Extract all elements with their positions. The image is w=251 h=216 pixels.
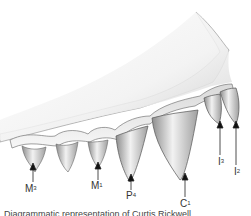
label-sup: 2 <box>237 168 240 174</box>
label-m3: M3 <box>25 184 37 194</box>
label-i3: I3 <box>218 157 224 167</box>
tooth-i2 <box>220 88 239 124</box>
label-p4: P4 <box>126 191 136 201</box>
tooth-i3 <box>204 94 221 124</box>
tooth-c1 <box>152 110 198 180</box>
figure-caption: Diagrammatic representation of Curtis Ri… <box>4 209 191 216</box>
label-base: P <box>126 190 133 201</box>
label-i2: I2 <box>234 167 240 177</box>
label-sup: 3 <box>221 158 224 164</box>
label-sup: 3 <box>33 185 36 191</box>
tooth-p4 <box>116 126 148 182</box>
label-sup: 1 <box>99 182 102 188</box>
label-sup: 1 <box>187 200 190 206</box>
label-m1: M1 <box>91 181 103 191</box>
label-c1: C1 <box>180 199 191 209</box>
tooth-m2 <box>56 142 78 172</box>
teeth-illustration <box>0 0 251 216</box>
label-sup: 4 <box>133 192 136 198</box>
